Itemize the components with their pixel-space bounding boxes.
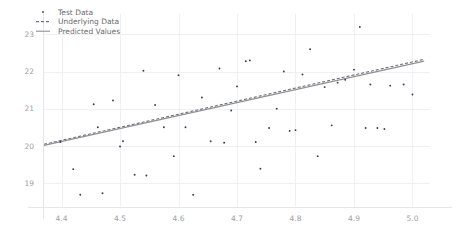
test-data-point <box>353 69 355 71</box>
test-data-point <box>309 48 311 50</box>
y-tick-label-21: 21 <box>24 104 34 113</box>
test-data-point <box>369 84 371 86</box>
test-data-point <box>268 127 270 129</box>
chart-figure: 4.44.54.64.74.84.95.0 1920212223 Test Da… <box>0 0 456 238</box>
y-tick-label-19: 19 <box>24 179 34 188</box>
test-data-point <box>112 100 114 102</box>
test-data-point <box>295 129 297 131</box>
predicted-values-line <box>44 61 424 145</box>
test-data-point <box>383 128 385 130</box>
test-data-point <box>154 104 156 106</box>
test-data-point <box>134 174 136 176</box>
x-tick-label-4.7: 4.7 <box>231 214 243 223</box>
test-data-point <box>236 85 238 87</box>
test-data-point <box>317 155 319 157</box>
y-tick-label-22: 22 <box>24 67 34 76</box>
test-data-point <box>185 126 187 128</box>
test-data-point <box>201 97 203 99</box>
predicted-values-path <box>44 61 424 145</box>
test-data-point <box>219 68 221 70</box>
test-data-point <box>223 142 225 144</box>
test-data-point <box>192 194 194 196</box>
legend-label-predicted-values: Predicted Values <box>58 27 120 36</box>
test-data-point <box>289 130 291 132</box>
test-data-point <box>93 103 95 105</box>
test-data-point <box>210 140 212 142</box>
test-data-point <box>72 168 74 170</box>
test-data-point <box>302 74 304 76</box>
test-data-point <box>403 84 405 86</box>
legend-label-underlying-data: Underlying Data <box>58 17 119 26</box>
test-data-point <box>163 126 165 128</box>
legend-marker-test-data <box>42 11 44 13</box>
test-data-point <box>249 59 251 61</box>
test-data-point <box>324 86 326 88</box>
x-tick-label-4.9: 4.9 <box>348 214 360 223</box>
test-data-point <box>276 108 278 110</box>
test-data-point <box>245 60 247 62</box>
x-axis-tick-labels: 4.44.54.64.74.84.95.0 <box>56 214 419 223</box>
test-data-point <box>59 141 61 143</box>
test-data-point <box>119 146 121 148</box>
test-data-point <box>331 124 333 126</box>
chart-legend: Test DataUnderlying DataPredicted Values <box>36 8 120 36</box>
test-data-point <box>337 82 339 84</box>
test-data-point <box>230 110 232 112</box>
test-data-point <box>359 26 361 28</box>
scatter-plot-svg: 4.44.54.64.74.84.95.0 1920212223 Test Da… <box>0 0 456 238</box>
y-tick-label-20: 20 <box>24 142 34 151</box>
test-data-point <box>145 175 147 177</box>
test-data-point <box>344 79 346 81</box>
test-data-point <box>102 192 104 194</box>
test-data-point <box>173 155 175 157</box>
gridlines <box>44 14 430 207</box>
test-data-points <box>59 26 413 196</box>
test-data-point <box>412 94 414 96</box>
axis-spines <box>28 14 452 219</box>
x-tick-label-4.5: 4.5 <box>114 214 126 223</box>
x-tick-label-4.4: 4.4 <box>56 214 68 223</box>
test-data-point <box>255 141 257 143</box>
x-tick-label-4.8: 4.8 <box>290 214 302 223</box>
test-data-point <box>389 85 391 87</box>
test-data-point <box>122 140 124 142</box>
test-data-point <box>79 194 81 196</box>
x-tick-label-5.0: 5.0 <box>406 214 418 223</box>
test-data-point <box>376 127 378 129</box>
test-data-point <box>259 168 261 170</box>
test-data-point <box>178 74 180 76</box>
y-tick-label-23: 23 <box>24 30 34 39</box>
test-data-point <box>283 71 285 73</box>
test-data-point <box>97 126 99 128</box>
x-tick-label-4.6: 4.6 <box>173 214 185 223</box>
y-axis-tick-labels: 1920212223 <box>24 30 34 187</box>
test-data-point <box>142 70 144 72</box>
test-data-point <box>365 127 367 129</box>
legend-label-test-data: Test Data <box>57 8 93 17</box>
